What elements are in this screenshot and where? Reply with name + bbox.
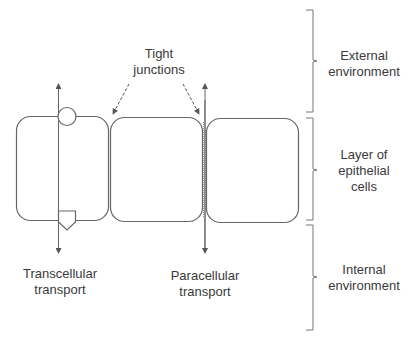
layer-line-1: Layer of — [322, 147, 406, 163]
paracellular-pathway — [204, 86, 205, 252]
external-environment-label: External environment — [322, 48, 406, 80]
membrane-transporter-icon — [59, 211, 76, 230]
layer-line-3: cells — [322, 179, 406, 195]
bracket-external — [306, 10, 317, 112]
cell-1 — [17, 117, 109, 221]
external-line-1: External — [322, 48, 406, 64]
membrane-channel-icon — [58, 108, 76, 126]
bracket-internal — [306, 225, 317, 330]
transcellular-line-2: transport — [16, 282, 104, 298]
transcellular-label: Transcellular transport — [16, 266, 104, 298]
cell-2 — [111, 118, 203, 222]
transcellular-pathway — [58, 86, 76, 252]
cell-3 — [207, 119, 299, 223]
region-brackets — [306, 10, 317, 330]
layer-line-2: epithelial — [322, 163, 406, 179]
paracellular-line-2: transport — [163, 284, 247, 300]
tight-junction-arrows — [114, 84, 198, 112]
tight-junctions-line-1: Tight — [126, 46, 192, 62]
tight-junctions-line-2: junctions — [126, 62, 192, 78]
internal-environment-label: Internal environment — [322, 262, 406, 294]
internal-line-2: environment — [322, 278, 406, 294]
layer-label: Layer of epithelial cells — [322, 147, 406, 195]
paracellular-label: Paracellular transport — [163, 268, 247, 300]
tight-junctions-label: Tight junctions — [126, 46, 192, 78]
bracket-layer — [306, 118, 317, 220]
transcellular-line-1: Transcellular — [16, 266, 104, 282]
internal-line-1: Internal — [322, 262, 406, 278]
external-line-2: environment — [322, 64, 406, 80]
paracellular-line-1: Paracellular — [163, 268, 247, 284]
